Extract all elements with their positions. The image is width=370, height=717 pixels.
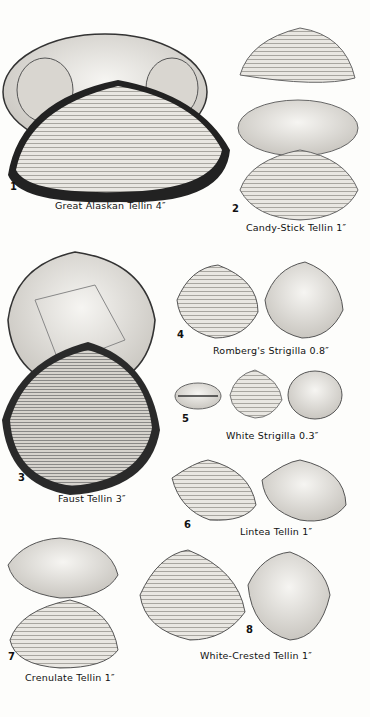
specimen-number-5: 5 (182, 413, 189, 424)
specimen-number-7: 7 (8, 651, 15, 662)
shell-illustrations (0, 0, 370, 717)
shell-8-white-crested-tellin (140, 550, 330, 640)
caption-rombergs-strigilla: Romberg's Strigilla 0.8″ (213, 345, 329, 356)
shell-2-candy-stick-tellin (238, 28, 358, 220)
shell-5-white-strigilla (175, 370, 342, 419)
specimen-number-3: 3 (18, 472, 25, 483)
caption-faust-tellin: Faust Tellin 3″ (58, 493, 126, 504)
specimen-number-1: 1 (10, 181, 17, 192)
shell-7-crenulate-tellin (8, 538, 118, 668)
caption-white-crested-tellin: White-Crested Tellin 1″ (200, 650, 312, 661)
caption-white-strigilla: White Strigilla 0.3″ (226, 430, 318, 441)
shell-4-rombergs-strigilla (177, 262, 343, 338)
specimen-number-6: 6 (184, 519, 191, 530)
caption-lintea-tellin: Lintea Tellin 1″ (240, 526, 312, 537)
specimen-number-8: 8 (246, 624, 253, 635)
caption-crenulate-tellin: Crenulate Tellin 1″ (25, 672, 115, 683)
caption-great-alaskan-tellin: Great Alaskan Tellin 4″ (55, 200, 166, 211)
shell-6-lintea-tellin (172, 460, 346, 521)
shell-3-faust-tellin (2, 252, 160, 495)
caption-candy-stick-tellin: Candy-Stick Tellin 1″ (246, 222, 346, 233)
shell-1-great-alaskan-tellin (3, 34, 230, 202)
specimen-number-2: 2 (232, 203, 239, 214)
specimen-number-4: 4 (177, 329, 184, 340)
